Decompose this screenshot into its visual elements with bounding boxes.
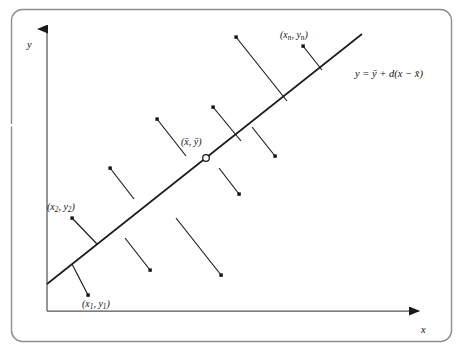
data-point [108, 166, 111, 169]
data-point [234, 35, 237, 38]
data-point [70, 216, 73, 219]
x-axis-label: x [420, 324, 426, 335]
data-point [86, 293, 89, 296]
data-point [237, 192, 240, 195]
centroid-label: (x̄, ȳ) [181, 136, 202, 148]
data-point [148, 268, 151, 271]
frame-edge-artifact [10, 124, 14, 126]
data-point [211, 105, 214, 108]
regression-diagram-svg: y x [0, 0, 463, 354]
centroid-marker [203, 155, 210, 162]
regression-diagram-figure: y x [0, 0, 463, 354]
figure-frame [12, 10, 452, 342]
data-point [273, 154, 276, 157]
regression-equation-label: y = ȳ + d(x − x̄) [354, 68, 423, 80]
data-point [155, 117, 158, 120]
data-point [219, 273, 222, 276]
y-axis-label: y [26, 39, 32, 50]
data-point [301, 44, 304, 47]
